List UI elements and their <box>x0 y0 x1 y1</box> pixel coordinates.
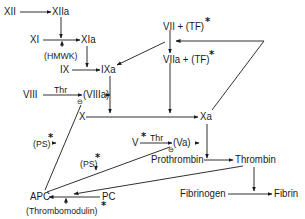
node-xa: Xa <box>200 111 212 122</box>
edge-xa-feedback-diag <box>212 41 264 110</box>
node-v: V <box>132 137 138 148</box>
asterisk-marker: * <box>209 51 214 59</box>
node-xia: XIa <box>81 34 96 45</box>
node-viii: VIII <box>23 89 38 100</box>
node-xii: XII <box>4 6 16 17</box>
node-thrombin: Thrombin <box>235 154 276 165</box>
asterisk-marker: * <box>205 18 210 26</box>
node-fibrin: Fibrin <box>274 188 298 199</box>
node-x: X <box>79 111 85 122</box>
node-ix: IX <box>60 64 69 75</box>
node-prothrombin: Prothrombin <box>151 154 204 165</box>
asterisk-marker: * <box>141 133 146 141</box>
node-vii-tf: VII + (TF) <box>163 21 204 32</box>
node-thrombomodulin: (Thrombomodulin) <box>26 205 97 216</box>
asterisk-marker: * <box>101 202 106 210</box>
coagulation-cascade-diagram: XII XIIa XI XIa (HMWK) IX IXa VII + (TF)… <box>0 0 305 219</box>
node-va: (Va) <box>173 137 191 148</box>
node-ixa: IXa <box>101 64 116 75</box>
node-apc: APC <box>30 191 50 202</box>
inhibit-marker-viiia: ⊖ <box>77 99 83 106</box>
label-thr-2: Thr <box>150 132 163 143</box>
node-hmwk: (HMWK) <box>44 50 77 61</box>
node-xi: XI <box>30 34 39 45</box>
node-viia-tf: VIIa + (TF) <box>163 54 209 65</box>
node-xiia: XIIa <box>52 6 69 17</box>
label-thr-1: Thr <box>54 84 67 95</box>
asterisk-marker: * <box>48 134 53 142</box>
asterisk-marker: * <box>95 154 100 162</box>
diagram-connectors <box>0 0 305 219</box>
node-fibrinogen: Fibrinogen <box>180 188 226 199</box>
edge-viia-ixa <box>117 42 165 65</box>
node-viiia: (VIIIa) <box>83 89 109 100</box>
